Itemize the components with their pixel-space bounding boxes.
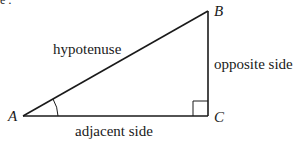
hypotenuse-label: hypotenuse bbox=[53, 41, 122, 57]
angle-arc-marker bbox=[53, 99, 58, 116]
vertex-label-b: B bbox=[214, 3, 223, 19]
cropped-header-text: e : bbox=[0, 0, 12, 7]
vertex-label-c: C bbox=[214, 109, 225, 125]
adjacent-side-label: adjacent side bbox=[75, 123, 153, 139]
opposite-side-label: opposite side bbox=[214, 56, 293, 72]
right-triangle-diagram: e : A B C hypotenuse opposite side adjac… bbox=[0, 0, 296, 142]
vertex-label-a: A bbox=[7, 108, 18, 124]
hypotenuse-line bbox=[23, 11, 208, 116]
right-angle-marker bbox=[193, 101, 208, 116]
